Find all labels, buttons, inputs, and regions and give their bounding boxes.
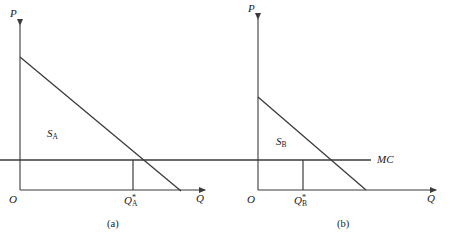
panel-a-axes xyxy=(20,25,205,190)
figure-canvas xyxy=(0,0,454,237)
panel-b-demand-curve xyxy=(258,97,366,190)
panel-b-supply-curve-label-base: S xyxy=(276,135,282,147)
panel-b-supply-curve-label-sub: B xyxy=(282,140,287,149)
marginal-cost-label: MC xyxy=(377,154,394,165)
panel-a-origin-label: O xyxy=(9,194,17,205)
economics-figure: P Q O SA Q*A (a) P Q O SB Q*B (b) MC xyxy=(0,0,454,237)
panel-b-x-axis-label: Q xyxy=(427,193,435,204)
panel-a-equilibrium-quantity-sub: A xyxy=(132,199,137,208)
panel-a-supply-curve-label-base: S xyxy=(47,127,53,139)
panel-b-equilibrium-quantity-label: Q*B xyxy=(294,195,311,206)
panel-b-caption: (b) xyxy=(337,219,349,230)
panel-b-origin-label: O xyxy=(247,194,255,205)
panel-a-caption: (a) xyxy=(107,219,119,230)
panel-a-equilibrium-quantity-base: Q xyxy=(124,194,132,206)
panel-b-y-axis-label: P xyxy=(248,3,255,14)
panel-a-x-axis-label: Q xyxy=(196,193,204,204)
panel-b-equilibrium-quantity-sub: B xyxy=(302,199,307,208)
panel-a-y-axis-label: P xyxy=(10,8,17,19)
panel-a-equilibrium-quantity-label: Q*A xyxy=(124,195,141,206)
panel-a-supply-curve-label: SA xyxy=(47,128,58,139)
panel-a-demand-curve xyxy=(20,57,181,191)
panel-b-axes xyxy=(258,19,436,190)
panel-a-supply-curve-label-sub: A xyxy=(53,132,58,141)
panel-b-equilibrium-quantity-base: Q xyxy=(294,194,302,206)
panel-b-supply-curve-label: SB xyxy=(276,136,287,147)
